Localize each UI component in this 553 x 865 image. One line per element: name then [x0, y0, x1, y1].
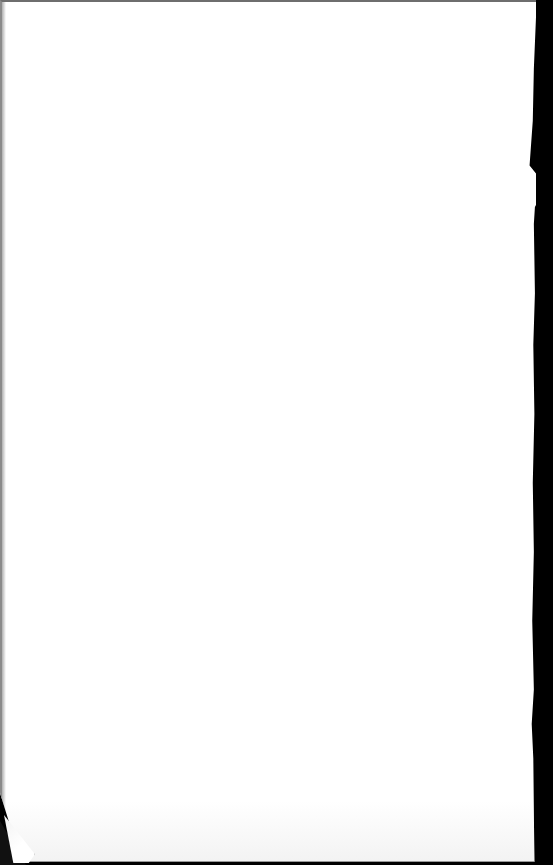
scanned-page-view	[0, 0, 553, 865]
blank-paper-page	[0, 0, 536, 862]
page-text-content	[2, 2, 536, 861]
